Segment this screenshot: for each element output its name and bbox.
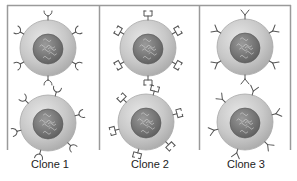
diagram-canvas [0,0,297,181]
receptor-icon [44,76,52,85]
receptor-icon [241,75,249,84]
b-cell [208,85,282,159]
b-cell [114,11,182,85]
b-cell [211,10,279,84]
clone-3-label: Clone 3 [196,158,296,170]
b-cell [11,86,85,160]
receptor-icon [144,76,152,85]
clone-2-label: Clone 2 [100,158,200,170]
receptor-icon [44,11,52,20]
b-cell [109,85,183,159]
receptor-icon [144,11,152,20]
receptor-icon [241,10,249,19]
clone-diagram: Clone 1 Clone 2 Clone 3 [0,0,297,181]
b-cell [14,11,82,85]
clone-1-label: Clone 1 [0,158,100,170]
